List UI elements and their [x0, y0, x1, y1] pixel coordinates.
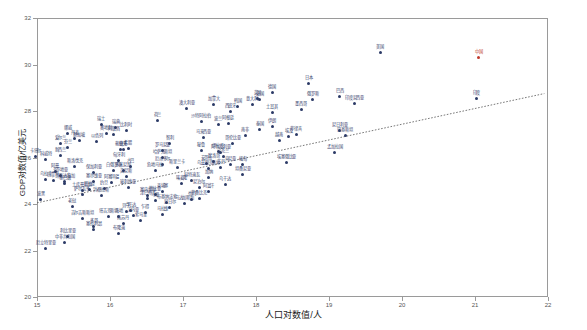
data-point-label: 白俄罗斯	[106, 164, 122, 169]
data-point[interactable]	[117, 232, 120, 235]
data-point-label: 肯尼亚	[225, 157, 237, 162]
data-point-label: 匈牙利	[113, 153, 125, 158]
data-point[interactable]	[183, 202, 186, 205]
data-point[interactable]	[66, 132, 69, 135]
y-tick-label: 22	[13, 248, 31, 254]
data-point[interactable]	[112, 133, 115, 136]
x-tick	[183, 297, 184, 301]
data-point[interactable]	[271, 125, 274, 128]
data-point[interactable]	[244, 134, 247, 137]
data-point-label: 日本	[305, 76, 313, 81]
x-tick	[402, 297, 403, 301]
data-point-label: 沙特阿拉伯	[191, 114, 211, 119]
data-point-label: 比利时	[120, 123, 132, 128]
data-point-label: 墨西哥	[295, 103, 307, 108]
data-point[interactable]	[285, 161, 288, 164]
data-point[interactable]	[59, 142, 62, 145]
data-point[interactable]	[207, 176, 210, 179]
data-point-label: 黎巴嫩	[59, 176, 71, 181]
data-point[interactable]	[198, 186, 201, 189]
data-point-label: 马来西亚	[196, 131, 212, 136]
data-point[interactable]	[59, 154, 62, 157]
data-point-label: 印度	[473, 91, 481, 96]
data-point-label: 泰国	[256, 123, 264, 128]
data-point[interactable]	[200, 149, 203, 152]
data-point[interactable]	[271, 91, 274, 94]
data-point-label: 加纳	[205, 170, 213, 175]
data-point-label: 萨尔瓦多	[74, 188, 90, 193]
data-point-label: 波兰	[214, 118, 222, 123]
data-point[interactable]	[81, 217, 84, 220]
data-point[interactable]	[156, 119, 159, 122]
data-point-label: 加拿大	[208, 97, 220, 102]
data-point-label: 塔吉克斯坦	[99, 210, 119, 215]
data-point[interactable]	[125, 175, 128, 178]
data-point-label: 俄罗斯	[307, 93, 319, 98]
data-point[interactable]	[271, 111, 274, 114]
data-point-label: 瑞典	[112, 120, 120, 125]
data-point-label: 哥伦比亚	[225, 136, 241, 141]
data-point-label: 巴西	[336, 89, 344, 94]
y-axis-label: GDP对数值/亿美元	[16, 98, 27, 228]
data-point-label: 新西兰	[55, 148, 67, 153]
data-point[interactable]	[224, 183, 227, 186]
data-point-label: 瑞士	[97, 118, 105, 123]
data-point[interactable]	[251, 103, 254, 106]
data-point[interactable]	[127, 186, 130, 189]
data-point[interactable]	[127, 147, 130, 150]
data-point[interactable]	[81, 193, 84, 196]
x-tick	[110, 297, 111, 301]
data-point[interactable]	[198, 197, 201, 200]
data-point-label: 索马里	[135, 214, 147, 219]
data-point[interactable]	[475, 97, 478, 100]
y-tick	[33, 18, 37, 19]
data-point[interactable]	[161, 190, 164, 193]
data-point-label: 中国	[475, 50, 483, 55]
data-point-label: 澳大利亚	[179, 102, 195, 107]
data-point-label: 西班牙	[225, 104, 237, 109]
data-point-label: 危地马拉	[147, 164, 163, 169]
data-point-label: 厄瓜多尔	[155, 157, 171, 162]
data-point-label: 阿联酋	[108, 127, 120, 132]
data-point-label: 保加利亚	[86, 166, 102, 171]
data-point-label: 土耳其	[266, 105, 278, 110]
data-point-label: 斯洛伐克	[67, 159, 83, 164]
data-point[interactable]	[66, 146, 69, 149]
data-point[interactable]	[34, 155, 37, 158]
x-tick	[548, 297, 549, 301]
data-point[interactable]	[71, 205, 74, 208]
data-point-label: 波黑	[37, 193, 45, 198]
data-point[interactable]	[344, 134, 347, 137]
data-point-label: 马拉维	[157, 207, 169, 212]
data-point[interactable]	[295, 133, 298, 136]
y-tick	[33, 65, 37, 66]
x-tick	[475, 297, 476, 301]
data-point-label: 阿根廷	[222, 117, 234, 122]
x-tick	[256, 297, 257, 301]
data-point[interactable]	[44, 247, 47, 250]
data-point-label: 中非共和国	[55, 235, 75, 240]
data-point-label: 乌兹别克斯坦	[197, 162, 220, 167]
data-point-label: 斯里兰卡	[169, 161, 185, 166]
data-point-label: 也门	[188, 193, 196, 198]
x-axis-label: 人口对数值/人	[0, 308, 587, 321]
data-point[interactable]	[52, 179, 55, 182]
data-point[interactable]	[125, 129, 128, 132]
data-point[interactable]	[122, 148, 125, 151]
data-point-label: 印度尼西亚	[345, 96, 365, 101]
data-point-label: 捷克	[119, 142, 127, 147]
data-point-label: 乌干达	[219, 177, 231, 182]
data-point-label: 吉尔吉斯斯坦	[71, 211, 94, 216]
data-point[interactable]	[200, 120, 203, 123]
data-point[interactable]	[63, 182, 66, 185]
data-point[interactable]	[229, 163, 232, 166]
data-point-label: 缅甸	[239, 157, 247, 162]
data-point-label: 洪都拉斯	[93, 189, 109, 194]
data-point[interactable]	[379, 51, 382, 54]
data-point[interactable]	[229, 110, 232, 113]
data-point[interactable]	[105, 132, 108, 135]
data-point-label: 新加坡	[73, 134, 85, 139]
data-point[interactable]	[207, 190, 210, 193]
data-point[interactable]	[161, 213, 164, 216]
data-point-label: 老挝	[68, 199, 76, 204]
